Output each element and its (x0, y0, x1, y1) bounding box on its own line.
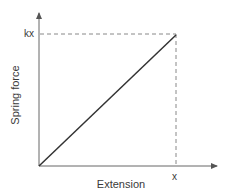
x-axis-label: Extension (97, 179, 145, 190)
chart-canvas (0, 0, 227, 195)
data-line (39, 35, 176, 166)
x-tick-label: x (172, 172, 177, 182)
y-axis-label: Spring force (10, 65, 21, 124)
y-tick-label: kx (24, 29, 34, 39)
